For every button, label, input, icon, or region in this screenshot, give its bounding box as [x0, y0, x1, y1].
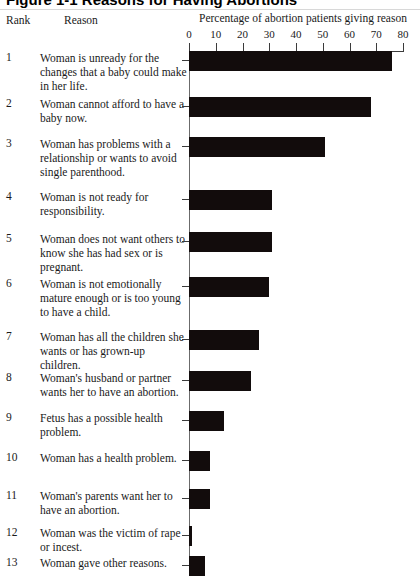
y-axis-tick — [182, 286, 189, 287]
rank-label: 2 — [6, 97, 12, 109]
reason-label: Woman is unready for the changes that a … — [40, 51, 188, 94]
figure-title: Figure 1-1 Reasons for Having Abortions — [6, 0, 297, 8]
rank-label: 12 — [6, 526, 18, 538]
reason-label: Woman has a health problem. — [40, 451, 188, 465]
rank-label: 11 — [6, 489, 17, 501]
y-axis-tick — [182, 146, 189, 147]
x-axis-tick-label: 80 — [398, 28, 409, 40]
bar — [189, 451, 210, 471]
rank-label: 6 — [6, 277, 12, 289]
y-axis-tick — [182, 199, 189, 200]
x-axis-tick-label: 10 — [210, 28, 221, 40]
rank-label: 5 — [6, 232, 12, 244]
reason-label: Woman is not emotionally mature enough o… — [40, 277, 188, 320]
x-axis-tick-label: 20 — [237, 28, 248, 40]
column-header-percentage: Percentage of abortion patients giving r… — [199, 12, 407, 24]
reason-label: Woman's parents want her to have an abor… — [40, 489, 188, 517]
reason-label: Fetus has a possible health problem. — [40, 411, 188, 439]
y-axis-tick — [182, 339, 189, 340]
y-axis-tick — [182, 106, 189, 107]
bar — [189, 190, 272, 210]
rank-label: 7 — [6, 330, 12, 342]
bar — [189, 277, 269, 297]
reason-label: Woman was the victim of rape or incest. — [40, 526, 188, 554]
reason-label: Woman cannot afford to have a baby now. — [40, 97, 188, 125]
rank-label: 8 — [6, 371, 12, 383]
column-header-reason: Reason — [64, 14, 98, 26]
reason-label: Woman gave other reasons. — [40, 556, 188, 570]
bar — [189, 97, 371, 117]
y-axis-tick — [182, 565, 189, 566]
reason-label: Woman is not ready for responsibility. — [40, 190, 188, 218]
rank-label: 10 — [6, 451, 18, 463]
x-axis-tick-label: 70 — [371, 28, 382, 40]
bar — [189, 232, 272, 252]
x-axis-tick-label: 30 — [264, 28, 275, 40]
rank-label: 4 — [6, 190, 12, 202]
y-axis-tick — [182, 241, 189, 242]
title-divider — [0, 9, 420, 10]
x-axis-tick — [403, 43, 404, 52]
rank-label: 1 — [6, 51, 12, 63]
rank-label: 9 — [6, 411, 12, 423]
bar — [189, 556, 205, 576]
y-axis-tick — [182, 60, 189, 61]
rank-label: 13 — [6, 556, 18, 568]
reason-label: Woman does not want others to know she h… — [40, 232, 188, 275]
y-axis-tick — [182, 498, 189, 499]
y-axis-tick — [182, 535, 189, 536]
x-axis: 01020304050607080 — [189, 40, 403, 41]
bar — [189, 489, 210, 509]
y-axis-tick — [182, 460, 189, 461]
rank-label: 3 — [6, 137, 12, 149]
reason-label: Woman's husband or partner wants her to … — [40, 371, 188, 399]
bar — [189, 526, 192, 546]
y-axis-tick — [182, 420, 189, 421]
bar — [189, 371, 251, 391]
reason-label: Woman has all the children she wants or … — [40, 330, 188, 373]
bar — [189, 330, 259, 350]
x-axis-tick-label: 40 — [291, 28, 302, 40]
y-axis-tick — [182, 380, 189, 381]
bar — [189, 51, 392, 71]
bar — [189, 411, 224, 431]
reason-label: Woman has problems with a relationship o… — [40, 137, 188, 180]
column-header-rank: Rank — [6, 14, 30, 26]
bar — [189, 137, 325, 157]
x-axis-tick-label: 60 — [344, 28, 355, 40]
x-axis-tick-label: 50 — [317, 28, 328, 40]
x-axis-tick-label: 0 — [186, 28, 192, 40]
figure-container: Figure 1-1 Reasons for Having Abortions … — [0, 0, 420, 577]
